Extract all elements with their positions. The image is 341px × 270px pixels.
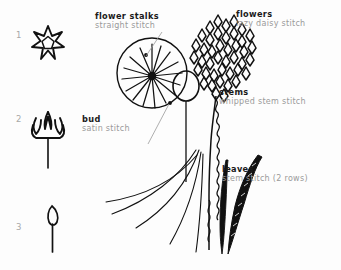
step-2-tulip-flower-icon xyxy=(32,112,64,168)
step-3-bud-icon xyxy=(48,206,58,252)
label-flowers-sub: lazy daisy stitch xyxy=(236,20,305,29)
step-1-star-flower-icon xyxy=(32,26,64,59)
label-flower-stalks-heading: flower stalks xyxy=(95,12,159,21)
label-bud-heading: bud xyxy=(82,115,130,124)
magnifier-circle-straight-stitch xyxy=(117,38,187,108)
step-number-1: 1 xyxy=(16,30,21,40)
label-leaves: leaves stem stitch (2 rows) xyxy=(222,165,308,184)
label-flower-stalks: flower stalks straight stitch xyxy=(95,12,159,31)
label-flowers: flowers lazy daisy stitch xyxy=(236,10,305,29)
label-flowers-heading: flowers xyxy=(236,10,305,19)
label-bud-sub: satin stitch xyxy=(82,125,130,134)
stem-texture-accents xyxy=(208,200,210,242)
label-bud: bud satin stitch xyxy=(82,115,130,134)
label-leaves-sub: stem stitch (2 rows) xyxy=(222,175,308,184)
step-number-3: 3 xyxy=(16,222,21,232)
step-number-2: 2 xyxy=(16,114,21,124)
label-flower-stalks-sub: straight stitch xyxy=(95,22,159,31)
illustration-canvas xyxy=(0,0,341,270)
leaf-blades-outline xyxy=(106,150,203,252)
whipped-stem-stitch xyxy=(209,96,220,250)
label-leaves-heading: leaves xyxy=(222,165,308,174)
label-stems-heading: stems xyxy=(219,88,306,97)
label-stems-sub: whipped stem stitch xyxy=(219,98,306,107)
label-stems: stems whipped stem stitch xyxy=(219,88,306,107)
embroidery-diagram-sheet: 1 2 3 flower stalks straight stitch flow… xyxy=(0,0,341,270)
bud-shape xyxy=(173,71,199,182)
leader-line-bud xyxy=(148,104,169,144)
